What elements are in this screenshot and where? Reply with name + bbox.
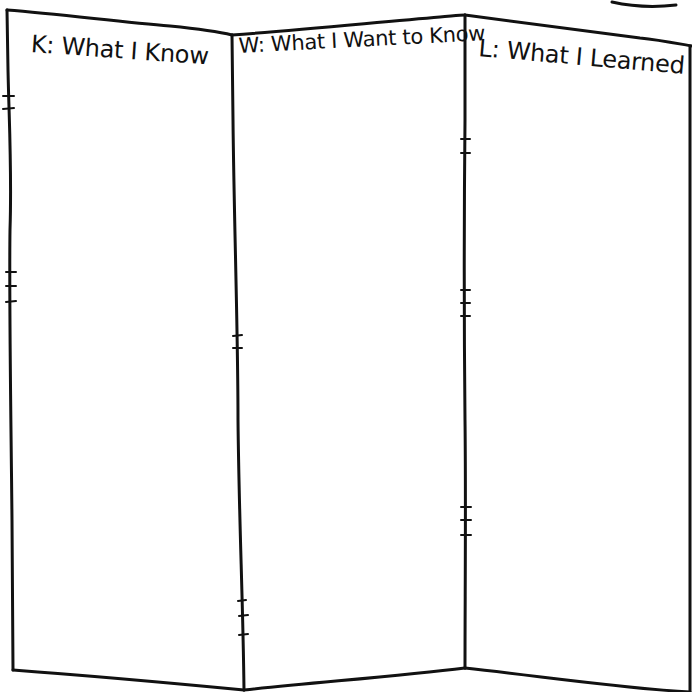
panel-know	[12, 80, 230, 660]
fold-line-2	[464, 15, 465, 668]
bottom-edge-k	[13, 670, 244, 690]
bottom-edge-l	[465, 668, 690, 692]
bottom-edge-w	[244, 668, 465, 690]
kwl-worksheet: K: What I Know W: What I Want to Know L:…	[0, 0, 692, 692]
scribble-top-right	[612, 2, 676, 6]
panel-want-to-know	[240, 70, 462, 670]
panel-learned	[468, 90, 688, 670]
